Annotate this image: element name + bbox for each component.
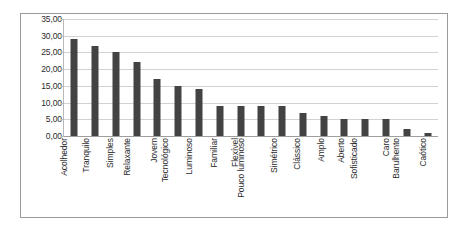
x-axis-tick-label: Aberto <box>336 138 346 163</box>
chart-frame: 35,0030,0025,0020,0015,0010,005,000,00 A… <box>20 13 448 218</box>
x-axis-tick-label: Acolhedor <box>59 138 69 176</box>
x-axis-label-slot: Clássico <box>292 138 313 216</box>
plot-area <box>63 19 438 136</box>
y-axis-tick-label: 10,00 <box>41 98 62 108</box>
x-axis-tick-label: Pouco luminoso <box>236 138 246 198</box>
x-axis-tick-label: Tranquilo <box>81 138 91 173</box>
x-axis-labels: AcolhedorTranquiloSimplesRelaxanteJovemT… <box>63 138 438 216</box>
x-axis-label-slot: Sofisticado <box>355 138 376 216</box>
x-axis-tick-label: Simples <box>105 138 115 168</box>
bar <box>403 129 410 136</box>
bar-slot <box>209 19 230 136</box>
bar-slot <box>230 19 251 136</box>
bar <box>424 133 431 136</box>
x-axis-tick-label: Luminoso <box>185 138 195 174</box>
x-axis-tick-label: Caro <box>381 138 391 156</box>
bar-slot <box>334 19 355 136</box>
bar <box>279 106 286 136</box>
bar <box>133 62 140 136</box>
y-axis-tick-label: 15,00 <box>41 81 62 91</box>
bar-slot <box>189 19 210 136</box>
x-axis-label-slot: Amplo <box>313 138 334 216</box>
bar <box>299 113 306 136</box>
x-axis-label-slot: Barulhento <box>396 138 417 216</box>
x-axis-label-slot: Simétrico <box>271 138 292 216</box>
bar-slot <box>417 19 438 136</box>
x-axis-tick-label: Tecnológico <box>160 138 170 182</box>
x-axis-tick-label: Relaxante <box>121 138 131 176</box>
x-axis-label-slot: Familiar <box>209 138 230 216</box>
y-axis: 35,0030,0025,0020,0015,0010,005,000,00 <box>21 19 62 136</box>
bar <box>341 119 348 136</box>
bar-slot <box>85 19 106 136</box>
x-axis-tick-label: Jovem <box>149 138 159 163</box>
bar <box>237 106 244 136</box>
x-axis-label-slot: Tranquilo <box>84 138 105 216</box>
y-axis-tick-label: 20,00 <box>41 64 62 74</box>
bar-slot <box>168 19 189 136</box>
bar <box>320 116 327 136</box>
x-axis-label-slot: Relaxante <box>126 138 147 216</box>
bar-slot <box>355 19 376 136</box>
bar-slot <box>251 19 272 136</box>
bar <box>92 46 99 136</box>
bar-slot <box>147 19 168 136</box>
bar <box>362 119 369 136</box>
bar-slot <box>293 19 314 136</box>
bar-slot <box>106 19 127 136</box>
bar-slot <box>376 19 397 136</box>
x-axis-tick-label: Simétrico <box>269 138 279 173</box>
axis-baseline <box>64 136 438 137</box>
bar-slot <box>126 19 147 136</box>
x-axis-tick-label: Clássico <box>291 138 301 170</box>
chart-plot-wrapper: 35,0030,0025,0020,0015,0010,005,000,00 A… <box>21 14 447 217</box>
bar <box>258 106 265 136</box>
x-axis-tick-label: Familiar <box>209 138 219 168</box>
x-axis-label-slot: Caótico <box>417 138 438 216</box>
y-axis-tick-label: 35,00 <box>41 14 62 24</box>
y-axis-tick-label: 25,00 <box>41 47 62 57</box>
bar <box>175 86 182 136</box>
bar-slot <box>396 19 417 136</box>
bar <box>383 119 390 136</box>
x-axis-tick-label: Sofisticado <box>349 138 359 179</box>
bar <box>112 52 119 136</box>
x-axis-tick-label: Caótico <box>418 138 428 166</box>
bar <box>216 106 223 136</box>
bar <box>196 89 203 136</box>
bar <box>154 79 161 136</box>
x-axis-tick-label: Amplo <box>316 138 326 162</box>
y-axis-tick-label: 30,00 <box>41 31 62 41</box>
x-axis-label-slot: Luminoso <box>188 138 209 216</box>
bar-slot <box>313 19 334 136</box>
bar <box>71 39 78 136</box>
x-axis-tick-label: Barulhento <box>391 138 401 179</box>
y-axis-tick-label: 5,00 <box>46 114 62 124</box>
bar-slot <box>64 19 85 136</box>
bar-slot <box>272 19 293 136</box>
bar-series <box>64 19 438 136</box>
